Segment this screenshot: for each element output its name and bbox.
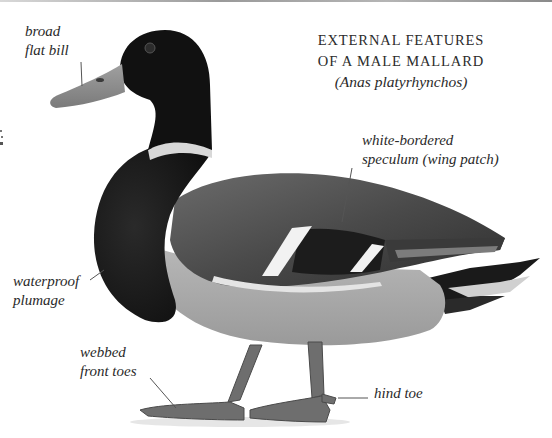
label-front-toes-line-1: webbed [80,343,137,362]
eye [145,43,155,53]
label-bill-line-2: flat bill [25,41,69,60]
label-plumage-line-1: waterproof [13,272,79,291]
figure-canvas: EXTERNAL FEATURES OF A MALE MALLARD (Ana… [0,0,552,438]
head [120,30,212,150]
leader-front-toes [150,378,176,408]
label-plumage-line-2: plumage [13,291,79,310]
title-line-2: OF A MALE MALLARD [296,51,506,72]
label-front-toes: webbed front toes [80,343,137,381]
edge-tick-marks [0,128,4,150]
figure-title: EXTERNAL FEATURES OF A MALE MALLARD (Ana… [296,30,506,92]
legs [140,342,336,422]
label-bill-line-1: broad [25,22,69,41]
label-front-toes-line-2: front toes [80,362,137,381]
label-hind-toe-line-1: hind toe [374,384,423,403]
scientific-name: (Anas platyrhynchos) [296,72,506,92]
label-speculum-line-1: white-bordered [362,131,499,150]
label-bill: broad flat bill [25,22,69,60]
bill [50,64,125,108]
label-hind-toe: hind toe [374,384,423,403]
label-speculum: white-bordered speculum (wing patch) [362,131,499,169]
label-plumage: waterproof plumage [13,272,79,310]
title-line-1: EXTERNAL FEATURES [296,30,506,51]
label-speculum-line-2: speculum (wing patch) [362,150,499,169]
leader-bill [81,62,82,86]
